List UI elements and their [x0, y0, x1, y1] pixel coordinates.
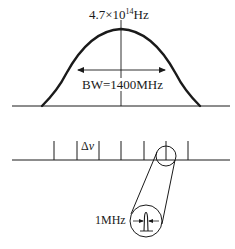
center-frequency-label: 4.7×1014Hz [89, 8, 149, 21]
mode-spacing-delta: Δ [81, 139, 89, 153]
mode-spacing-nu: ν [89, 139, 94, 153]
diagram-canvas: 4.7×1014Hz BW=1400MHz Δν 1MHz [0, 0, 235, 249]
bandwidth-arrow-left-head [77, 67, 84, 73]
center-frequency-mantissa: 4.7×10 [89, 7, 126, 22]
zoom-tangent-right [162, 160, 175, 224]
diagram-svg [0, 0, 235, 249]
bandwidth-label: BW=1400MHz [81, 78, 164, 91]
mode-ticks [54, 141, 188, 160]
center-frequency-unit: Hz [134, 7, 149, 22]
bandwidth-arrow-right-head [159, 67, 166, 73]
center-frequency-exponent: 14 [126, 7, 134, 16]
mode-spacing-label: Δν [81, 140, 94, 152]
linewidth-label: 1MHz [95, 214, 126, 226]
